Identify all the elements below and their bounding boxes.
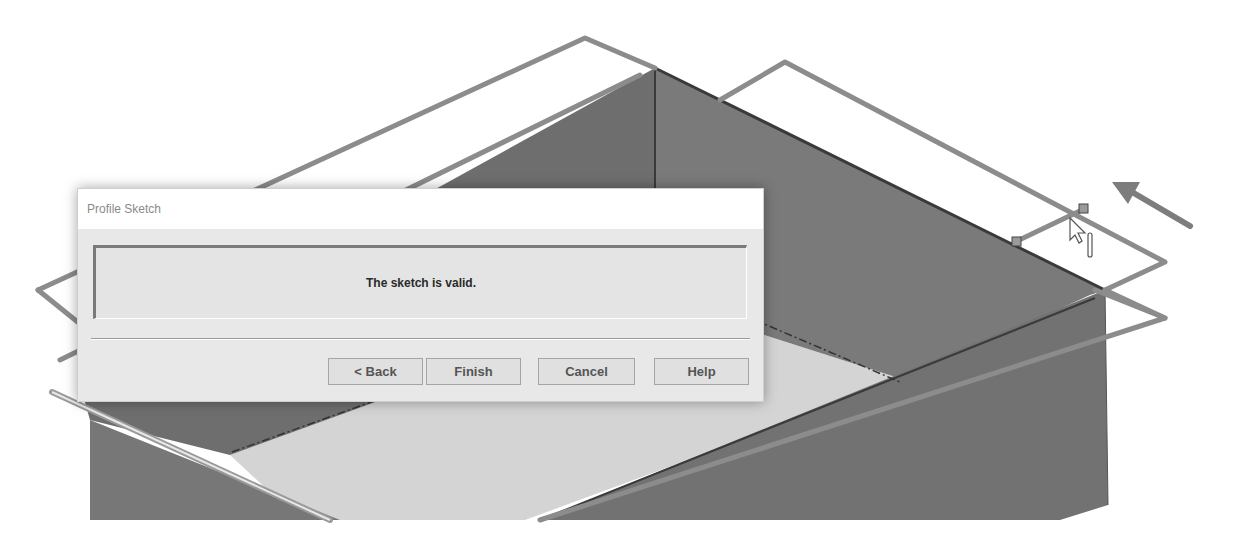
validation-message: The sketch is valid. (96, 276, 746, 290)
dialog-title: Profile Sketch (87, 202, 161, 216)
profile-sketch-dialog: Profile Sketch The sketch is valid. < Ba… (77, 188, 764, 402)
separator (91, 338, 750, 340)
finish-button[interactable]: Finish (426, 358, 521, 385)
dialog-titlebar[interactable]: Profile Sketch (78, 189, 763, 229)
help-button[interactable]: Help (654, 358, 749, 385)
message-panel: The sketch is valid. (93, 245, 747, 319)
back-button[interactable]: < Back (328, 358, 423, 385)
cancel-button[interactable]: Cancel (538, 358, 635, 385)
direction-arrow-icon (1112, 182, 1190, 226)
